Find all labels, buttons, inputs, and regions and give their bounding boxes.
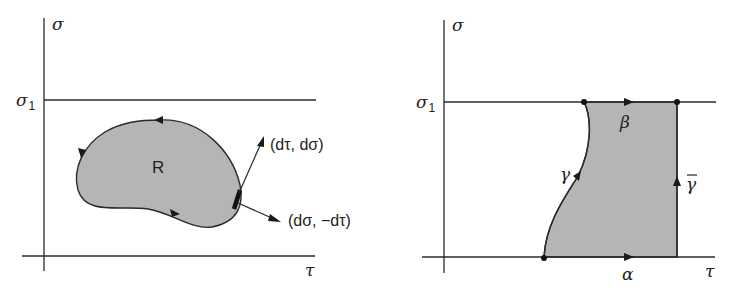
tangent-arrow-head [257,136,264,147]
gamma-label: γ [560,164,571,184]
sigma1-label: σ1 [416,92,436,115]
endpoint-top-left [581,99,587,105]
normal-vector [238,203,274,219]
sigma-axis-label: σ [452,15,464,35]
tangent-vector-label: (dτ, dσ) [270,136,324,153]
endpoint-bottom-left [541,255,547,261]
tau-axis-label: τ [305,260,315,280]
sigma-axis-label: σ [52,14,64,34]
tau-axis-label: τ [705,261,715,281]
alpha-label: α [622,264,634,284]
endpoint-top-right [674,99,680,105]
normal-arrow-head [268,214,281,222]
tangent-vector [239,141,262,193]
normal-vector-label: (dσ, −dτ) [288,212,351,229]
sigma1-label: σ1 [16,90,36,113]
beta-label: β [619,112,630,132]
figure-canvas: σ τ σ1 R (dτ, dσ) (dσ, −dτ) σ τ σ1 β γ γ [0,0,732,296]
gamma-bar-label: γ [686,174,697,194]
right-panel: σ τ σ1 β γ γ α [416,15,716,284]
region-r-label: R [152,158,164,177]
left-panel: σ τ σ1 R (dτ, dσ) (dσ, −dτ) [16,14,351,280]
